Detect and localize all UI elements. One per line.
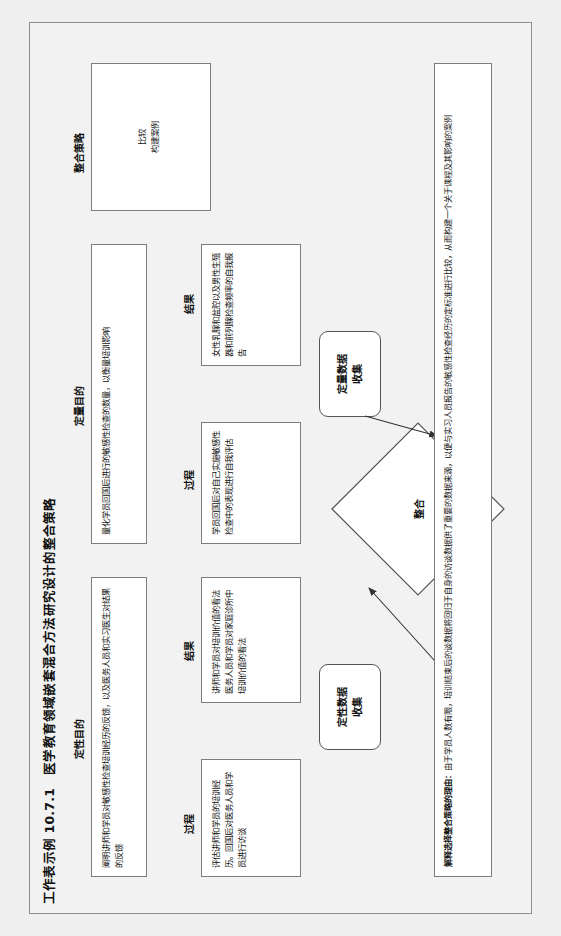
rotated-worksheet-canvas: 工作表示例 10.7.1 医学教育领域嵌套混合方法研究设计的整合策略 定性目的 … xyxy=(29,22,532,914)
quantitative-results-label: 结果 xyxy=(181,294,196,314)
qualitative-results-label: 结果 xyxy=(181,641,196,661)
integration-strategies-box: 比较 构建案例 xyxy=(91,63,211,211)
qualitative-purpose-box: 阐明讲师和学员对敏感性检查培训经历的反馈，以及医务人员和实习医生对结果的反馈 xyxy=(91,577,147,877)
qualitative-process-label: 过程 xyxy=(181,814,196,834)
qualitative-process-box: 评估讲师和学员的培训经历。回国后对医务人员和学员进行访谈 xyxy=(201,759,301,877)
footnote-body: 由于学员人数有限，培训结束后的谈数据将回归于自身的访谈数据供了重要的数据来源，以… xyxy=(443,115,453,771)
section-header-integration: 整合策略 xyxy=(71,133,86,173)
quantitative-purpose-box: 量化学员回国后进行的敏感性检查的数量，以衡量培训影响 xyxy=(91,244,147,544)
quantitative-process-label: 过程 xyxy=(181,470,196,490)
qualitative-data-collection-node: 定性数据 收集 xyxy=(319,664,381,750)
qualitative-purpose-text: 阐明讲师和学员对敏感性检查培训经历的反馈，以及医务人员和实习医生对结果的反馈 xyxy=(100,586,126,868)
section-header-quantitative: 定量目的 xyxy=(71,386,86,426)
scanned-page: 工作表示例 10.7.1 医学教育领域嵌套混合方法研究设计的整合策略 定性目的 … xyxy=(0,0,561,936)
quantitative-process-box: 学员回国后对自己实施敏感性检查中的表现进行自我评估 xyxy=(201,422,301,544)
quantitative-process-text: 学员回国后对自己实施敏感性检查中的表现进行自我评估 xyxy=(210,431,236,535)
quantitative-results-box: 女性乳腺和盆腔以及男性生殖器和前列腺检查频率的自我报告 xyxy=(201,244,301,366)
qualitative-process-text: 评估讲师和学员的培训经历。回国后对医务人员和学员进行访谈 xyxy=(210,768,249,868)
footnote-text: 解释选择整合策略的理由：由于学员人数有限，培训结束后的谈数据将回归于自身的访谈数… xyxy=(442,73,455,867)
quantitative-results-text: 女性乳腺和盆腔以及男性生殖器和前列腺检查频率的自我报告 xyxy=(210,253,249,357)
qualitative-results-text: 讲师和学员对培训价值的看法 医务人员和学员对家庭诊所中培训价值的看法 xyxy=(210,586,249,694)
integration-strategies-text: 比较 构建案例 xyxy=(136,72,162,202)
quantitative-purpose-text: 量化学员回国后进行的敏感性检查的数量，以衡量培训影响 xyxy=(100,253,113,535)
integration-diamond-label: 整合 xyxy=(411,420,426,598)
section-header-qualitative: 定性目的 xyxy=(71,719,86,759)
page-title: 工作表示例 10.7.1 医学教育领域嵌套混合方法研究设计的整合策略 xyxy=(39,304,58,904)
qualitative-results-box: 讲师和学员对培训价值的看法 医务人员和学员对家庭诊所中培训价值的看法 xyxy=(201,577,301,703)
footnote-label: 解释选择整合策略的理由： xyxy=(443,771,453,867)
footnote-box: 解释选择整合策略的理由：由于学员人数有限，培训结束后的谈数据将回归于自身的访谈数… xyxy=(434,63,492,877)
